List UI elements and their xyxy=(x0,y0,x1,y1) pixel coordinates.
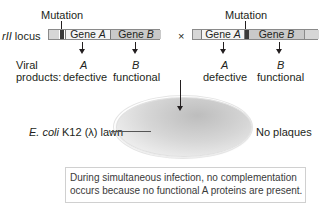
infection-arrow-icon xyxy=(177,106,183,111)
left-mutation-marker xyxy=(60,30,64,39)
explanation-note: During simultaneous infection, no comple… xyxy=(65,167,306,203)
cross-symbol: × xyxy=(178,30,184,42)
right-product-a-letter: A xyxy=(221,59,228,71)
note-line-1: During simultaneous infection, no comple… xyxy=(70,171,301,184)
left-rii-locus-bar: Gene A Gene B xyxy=(48,29,160,40)
left-locus-end xyxy=(49,30,59,39)
right-rii-locus-bar: Gene A Gene B xyxy=(192,29,318,40)
right-mutation-pointer xyxy=(245,21,246,29)
right-locus-end-left xyxy=(193,30,201,39)
rii-locus-label: rII locus xyxy=(2,30,41,42)
right-b-arrow-icon xyxy=(276,49,282,54)
left-product-a-letter: A xyxy=(80,59,87,71)
right-product-a-state: defective xyxy=(203,71,247,83)
right-a-arrow-icon xyxy=(220,49,226,54)
viral-label-line1: Viral xyxy=(16,59,38,71)
note-line-2: occurs because no functional A proteins … xyxy=(70,184,301,197)
left-gene-a: Gene A xyxy=(65,30,111,39)
left-product-b-state: functional xyxy=(113,71,160,83)
plate-lawn-label: E. coli K12 (λ) lawn xyxy=(29,126,123,138)
left-mutation-pointer xyxy=(61,21,62,29)
left-gene-b: Gene B xyxy=(111,30,161,39)
plate-result-label: No plaques xyxy=(256,126,312,138)
left-a-arrow-icon xyxy=(79,49,85,54)
left-product-b-letter: B xyxy=(132,59,139,71)
right-product-b-letter: B xyxy=(277,59,284,71)
right-product-b-state: functional xyxy=(257,71,304,83)
infection-arrow-shaft xyxy=(180,80,181,107)
viral-label-line2: products: xyxy=(16,71,61,83)
plate-label-leader-line xyxy=(111,131,151,132)
right-locus-end-right xyxy=(304,30,319,39)
right-gene-b: Gene B xyxy=(249,30,304,39)
right-mutation-label: Mutation xyxy=(225,9,267,21)
left-mutation-label: Mutation xyxy=(41,9,83,21)
petri-dish-lawn xyxy=(116,97,252,157)
right-gene-a: Gene A xyxy=(201,30,245,39)
left-b-arrow-icon xyxy=(132,49,138,54)
left-product-a-state: defective xyxy=(63,71,107,83)
